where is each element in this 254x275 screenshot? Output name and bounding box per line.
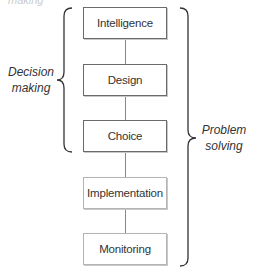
problem-label-line2: solving: [200, 138, 248, 154]
phase-box-monitoring: Monitoring: [83, 233, 167, 265]
left-brace-icon: [54, 6, 74, 156]
connector-line: [125, 152, 127, 177]
phase-box-intelligence: Intelligence: [83, 7, 167, 39]
phase-box-choice: Choice: [83, 120, 167, 152]
connector-line: [125, 96, 127, 120]
problem-solving-label: Problem solving: [200, 122, 248, 154]
connector-line: [125, 39, 127, 64]
problem-label-line1: Problem: [200, 122, 248, 138]
decision-label-line1: Decision: [6, 64, 56, 80]
connector-line: [125, 209, 127, 233]
phase-box-implementation: Implementation: [83, 177, 167, 209]
right-brace-icon: [178, 6, 200, 270]
decision-making-label: Decision making: [6, 64, 56, 96]
cropped-text-fragment: making: [8, 0, 43, 6]
phase-box-design: Design: [83, 64, 167, 96]
decision-label-line2: making: [6, 80, 56, 96]
